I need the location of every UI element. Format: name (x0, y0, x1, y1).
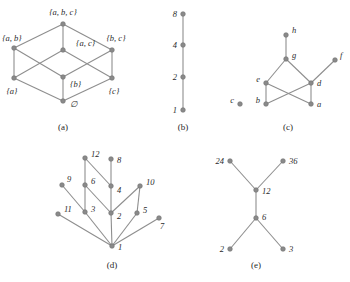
node-b-n8[interactable] (181, 12, 186, 17)
node-label-d-n7: 7 (160, 221, 165, 231)
node-label-b-n2: 2 (173, 72, 178, 82)
edge-d-n5-n1 (112, 213, 137, 246)
edge-c-g-e (266, 59, 286, 83)
edge-c-g-d (286, 59, 311, 83)
node-d-n5[interactable] (135, 211, 140, 216)
node-label-a-a: {a} (6, 86, 18, 96)
node-a-ab[interactable] (12, 46, 17, 51)
node-b-n2[interactable] (181, 75, 186, 80)
edge-d-n3-n1 (85, 212, 112, 246)
caption-b: (b) (178, 122, 189, 132)
node-label-e-n3: 3 (288, 244, 293, 254)
node-label-c-e: e (256, 74, 260, 84)
node-label-d-n5: 5 (143, 205, 147, 215)
node-d-n11[interactable] (56, 212, 61, 217)
node-label-c-a: a (317, 99, 321, 109)
hasse-diagram-figure: {a, b, c}{a, b}{a, c}{b, c}{a}{b}{c}∅842… (0, 0, 350, 282)
node-label-d-n3: 3 (90, 204, 95, 214)
node-label-a-ab: {a, b} (2, 33, 22, 43)
node-d-n3[interactable] (83, 210, 88, 215)
node-label-d-n8: 8 (117, 155, 122, 165)
node-d-n1[interactable] (110, 244, 115, 249)
node-a-bc[interactable] (110, 48, 115, 53)
edge-e-n6-n3 (256, 218, 283, 249)
node-label-d-n12: 12 (91, 149, 100, 159)
node-label-c-f: f (340, 50, 344, 60)
caption-a: (a) (58, 122, 68, 132)
node-a-b[interactable] (61, 75, 66, 80)
node-b-n4[interactable] (181, 43, 186, 48)
node-a-c[interactable] (110, 76, 115, 81)
edge-d-n10-n5 (137, 186, 140, 213)
caption-d: (d) (107, 260, 118, 270)
node-label-a-b: {b} (70, 79, 82, 89)
node-d-n7[interactable] (157, 216, 162, 221)
node-label-c-c: c (230, 95, 234, 105)
node-label-b-n4: 4 (173, 40, 178, 50)
node-label-d-n2: 2 (117, 211, 122, 221)
node-c-a[interactable] (309, 102, 314, 107)
node-a-empty[interactable] (61, 99, 66, 104)
node-label-a-c: {c} (109, 86, 120, 96)
node-a-abc[interactable] (61, 22, 66, 27)
node-c-g[interactable] (284, 57, 289, 62)
node-label-c-b: b (256, 95, 260, 105)
node-e-n24[interactable] (228, 159, 233, 164)
caption-c: (c) (283, 122, 293, 132)
node-c-e[interactable] (264, 81, 269, 86)
edge-a-ac-a (14, 50, 63, 78)
node-label-e-n24: 24 (216, 156, 225, 166)
node-label-a-empty: ∅ (70, 99, 78, 109)
node-label-e-n6: 6 (262, 212, 267, 222)
node-e-n36[interactable] (281, 159, 286, 164)
edge-a-ab-b (14, 48, 63, 77)
node-label-d-n11: 11 (64, 204, 72, 214)
caption-e: (e) (251, 260, 261, 270)
edge-d-n2-n1 (111, 213, 112, 246)
edge-e-n6-n2 (230, 218, 256, 249)
edge-e-n24-n12 (230, 161, 256, 190)
diagram-canvas: {a, b, c}{a, b}{a, c}{b, c}{a}{b}{c}∅842… (0, 0, 350, 282)
edge-d-n6-n2 (85, 185, 111, 213)
node-label-d-n4: 4 (117, 185, 122, 195)
node-label-d-n6: 6 (91, 176, 96, 186)
node-d-n4[interactable] (109, 184, 114, 189)
node-label-d-n9: 9 (67, 174, 72, 184)
node-a-a[interactable] (12, 76, 17, 81)
node-d-n10[interactable] (138, 184, 143, 189)
node-c-c[interactable] (238, 102, 243, 107)
node-label-b-n8: 8 (173, 9, 178, 19)
node-label-e-n12: 12 (262, 186, 271, 196)
node-label-b-n1: 1 (173, 105, 177, 115)
edge-d-n12-n4 (85, 158, 111, 186)
panel-captions-group: (a)(b)(c)(d)(e) (58, 122, 293, 270)
edge-c-d-f (311, 60, 335, 83)
node-c-b[interactable] (264, 102, 269, 107)
node-d-n8[interactable] (109, 157, 114, 162)
node-label-e-n2: 2 (220, 244, 225, 254)
node-d-n2[interactable] (109, 211, 114, 216)
node-label-a-abc: {a, b, c} (49, 7, 77, 17)
edge-d-n10-n2 (111, 186, 140, 213)
node-label-c-h: h (292, 25, 296, 35)
node-c-h[interactable] (284, 33, 289, 38)
edge-a-a-empty (14, 78, 63, 101)
node-e-n6[interactable] (254, 216, 259, 221)
node-label-d-n10: 10 (146, 177, 155, 187)
node-e-n3[interactable] (281, 247, 286, 252)
node-label-a-ac: {a, c} (76, 38, 96, 48)
node-label-c-g: g (292, 50, 296, 60)
node-label-e-n36: 36 (288, 156, 298, 166)
node-label-a-bc: {b, c} (106, 33, 126, 43)
node-c-f[interactable] (333, 58, 338, 63)
node-e-n2[interactable] (228, 247, 233, 252)
node-c-d[interactable] (309, 81, 314, 86)
node-d-n12[interactable] (83, 156, 88, 161)
edge-d-n11-n1 (58, 214, 112, 246)
node-a-ac[interactable] (61, 48, 66, 53)
node-d-n6[interactable] (83, 183, 88, 188)
node-b-n1[interactable] (181, 108, 186, 113)
node-label-d-n1: 1 (118, 242, 122, 252)
node-d-n9[interactable] (60, 183, 65, 188)
node-e-n12[interactable] (254, 188, 259, 193)
